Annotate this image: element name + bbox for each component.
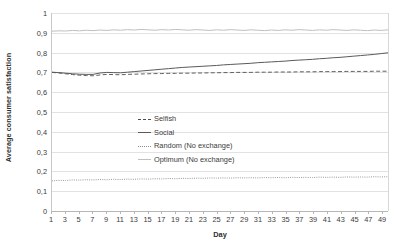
legend-item-label: Social [154,128,174,137]
y-axis-title-label: Average consumer satisfaction [5,53,14,162]
series-line [52,177,388,181]
series-line [52,29,388,31]
y-axis-tick-labels: 00,10,20,30,40,50,60,70,80,91 [18,13,51,211]
legend-line-swatch [138,155,151,163]
x-axis-tick-mark [341,211,342,214]
legend-item[interactable]: Optimum (No exchange) [138,153,288,167]
legend-item-label: Optimum (No exchange) [154,155,235,164]
x-axis-tick-mark [120,211,121,214]
x-axis-tick-mark [230,211,231,214]
x-axis-tick-mark [92,211,93,214]
y-axis-tick-label: 0,3 [37,147,47,156]
x-axis-tick-label: 31 [254,215,262,224]
x-axis-tick-mark [217,211,218,214]
x-axis-tick-label: 9 [104,215,108,224]
x-axis-tick-labels: 1357911131517192123252729313335373941434… [51,215,389,227]
legend-item[interactable]: Selfish [138,112,288,126]
y-axis-tick-label: 0 [43,207,47,216]
y-axis-tick-label: 0,6 [37,88,47,97]
x-axis-tick-label: 29 [240,215,248,224]
x-axis-title: Day [51,230,389,239]
y-axis-tick-label: 0,7 [37,68,47,77]
x-axis-tick-label: 23 [199,215,207,224]
x-axis-tick-label: 39 [309,215,317,224]
x-axis-tick-label: 3 [63,215,67,224]
y-axis-tick-label: 0,1 [37,187,47,196]
legend-line-swatch [138,115,151,123]
y-axis-tick-label: 0,5 [37,108,47,117]
y-axis-title: Average consumer satisfaction [0,0,18,215]
x-axis-tick-mark [65,211,66,214]
x-axis-tick-label: 49 [378,215,386,224]
y-axis-tick-label: 0,9 [37,28,47,37]
x-axis-tick-label: 45 [350,215,358,224]
x-axis-tick-mark [134,211,135,214]
x-axis-tick-label: 37 [295,215,303,224]
x-axis-tick-mark [189,211,190,214]
x-axis-tick-label: 19 [171,215,179,224]
y-axis-tick-label: 0,2 [37,167,47,176]
x-axis-tick-mark [368,211,369,214]
x-axis-tick-mark [161,211,162,214]
x-axis-tick-label: 15 [143,215,151,224]
x-axis-tick-mark [327,211,328,214]
x-axis-tick-label: 27 [226,215,234,224]
x-axis-tick-label: 25 [212,215,220,224]
x-axis-tick-label: 1 [49,215,53,224]
chart-legend: SelfishSocialRandom (No exchange)Optimum… [138,112,288,166]
line-chart: Average consumer satisfaction 00,10,20,3… [0,0,396,252]
legend-item-label: Random (No exchange) [154,141,232,150]
legend-line-swatch [138,142,151,150]
x-axis-tick-label: 17 [157,215,165,224]
x-axis-tick-mark [51,211,52,214]
x-axis-tick-label: 11 [116,215,124,224]
x-axis-tick-label: 21 [185,215,193,224]
legend-item-label: Selfish [154,114,176,123]
x-axis-tick-mark [106,211,107,214]
x-axis-tick-mark [272,211,273,214]
y-axis-tick-label: 0,8 [37,48,47,57]
x-axis-tick-mark [382,211,383,214]
x-axis-tick-mark [175,211,176,214]
series-line [52,53,388,75]
x-axis-tick-label: 5 [77,215,81,224]
x-axis-tick-label: 13 [130,215,138,224]
y-axis-tick-label: 1 [43,9,47,18]
x-axis-tick-mark [203,211,204,214]
x-axis-tick-label: 47 [364,215,372,224]
legend-item[interactable]: Social [138,126,288,140]
x-axis-tick-mark [299,211,300,214]
legend-item[interactable]: Random (No exchange) [138,139,288,153]
x-axis-tick-mark [79,211,80,214]
x-axis-tick-mark [258,211,259,214]
x-axis-tick-label: 35 [281,215,289,224]
x-axis-tick-mark [313,211,314,214]
y-axis-tick-label: 0,4 [37,127,47,136]
x-axis-tick-label: 41 [323,215,331,224]
legend-line-swatch [138,128,151,136]
x-axis-tick-mark [355,211,356,214]
x-axis-tick-label: 7 [90,215,94,224]
x-axis-tick-mark [244,211,245,214]
x-axis-tick-label: 33 [268,215,276,224]
x-axis-tick-mark [148,211,149,214]
x-axis-tick-label: 43 [337,215,345,224]
series-line [52,71,388,76]
x-axis-tick-mark [286,211,287,214]
